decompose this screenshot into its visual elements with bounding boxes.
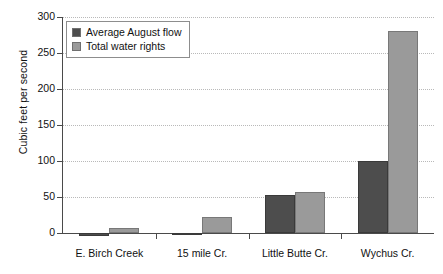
y-tick-mark-0 [57, 233, 62, 234]
y-tick-label-100: 100 [15, 154, 55, 166]
bar [358, 161, 388, 233]
y-tick-mark-200 [57, 89, 62, 90]
bar-chart: Cubic feet per second 050100150200250300… [0, 0, 443, 274]
bar [109, 228, 139, 233]
x-tick-label: E. Birch Creek [63, 247, 156, 259]
x-tick-mark [341, 233, 342, 239]
bar [388, 31, 418, 233]
y-tick-label-300: 300 [15, 10, 55, 22]
bar [295, 192, 325, 233]
x-tick-mark [249, 233, 250, 239]
legend-item: Average August flow [72, 25, 182, 39]
bar [172, 233, 202, 235]
x-tick-label: 15 mile Cr. [156, 247, 249, 259]
y-tick-mark-300 [57, 17, 62, 18]
y-tick-mark-50 [57, 197, 62, 198]
y-tick-mark-100 [57, 161, 62, 162]
y-tick-label-200: 200 [15, 82, 55, 94]
legend-label: Total water rights [86, 40, 165, 52]
legend-swatch-icon [72, 42, 81, 51]
x-tick-mark [156, 233, 157, 239]
y-tick-label-0: 0 [15, 226, 55, 238]
y-tick-mark-150 [57, 125, 62, 126]
x-tick-label: Little Butte Cr. [249, 247, 342, 259]
y-tick-label-250: 250 [15, 46, 55, 58]
legend-label: Average August flow [86, 26, 182, 38]
bar [79, 233, 109, 236]
legend-swatch-icon [72, 28, 81, 37]
bar [202, 217, 232, 233]
y-tick-label-50: 50 [15, 190, 55, 202]
bar-group [358, 17, 418, 233]
x-tick-label: Wychus Cr. [341, 247, 434, 259]
y-tick-mark-250 [57, 53, 62, 54]
bar-group [265, 17, 325, 233]
y-tick-label-150: 150 [15, 118, 55, 130]
bar [265, 195, 295, 233]
chart-legend: Average August flowTotal water rights [66, 21, 190, 58]
legend-item: Total water rights [72, 39, 182, 53]
